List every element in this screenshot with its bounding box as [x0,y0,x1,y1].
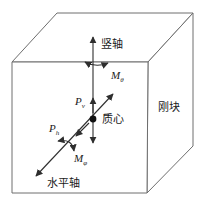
moment-theta-subscript: θ [120,76,124,84]
rigid-block-label: 刚块 [158,101,180,113]
cube-front-face [12,62,148,193]
center-of-mass-label: 质心 [102,113,124,125]
horizontal-force-subscript: h [56,129,60,137]
horizontal-axis-label: 水平轴 [47,176,80,189]
moment-phi-subscript: φ [83,159,87,167]
rigid-block-vibration-diagram: 竖轴 Mθ Pv 质心 刚块 Ph Mφ 水平轴 [0,0,201,206]
diagram-canvas: 竖轴 Mθ Pv 质心 刚块 Ph Mφ 水平轴 [0,0,201,206]
vertical-axis-label: 竖轴 [101,37,123,50]
center-of-mass-dot [90,116,97,123]
